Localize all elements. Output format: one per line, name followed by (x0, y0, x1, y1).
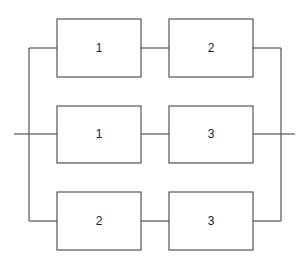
path-1: 1 2 (29, 19, 281, 77)
block-label: 2 (208, 41, 215, 55)
block-label: 1 (96, 41, 103, 55)
path-3: 2 3 (29, 192, 281, 250)
path-2: 1 3 (29, 106, 281, 163)
reliability-diagram: 1 2 1 3 2 3 (0, 0, 303, 264)
block-label: 3 (208, 127, 215, 141)
block-label: 1 (96, 127, 103, 141)
block-label: 2 (96, 214, 103, 228)
block-label: 3 (208, 214, 215, 228)
